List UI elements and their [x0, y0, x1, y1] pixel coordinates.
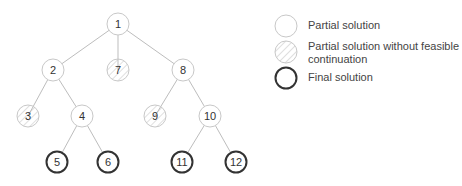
node-label: 11: [176, 156, 187, 168]
node-label: 1: [115, 18, 121, 30]
tree-nodes: 127834910561112: [17, 13, 247, 173]
tree-node-2: 2: [42, 59, 64, 81]
tree-node-4: 4: [71, 105, 93, 127]
infeasible-node-symbol-icon: [272, 40, 302, 64]
node-label: 4: [79, 110, 85, 122]
node-label: 12: [230, 156, 242, 168]
tree-node-10: 10: [199, 105, 221, 127]
tree-node-8: 8: [172, 59, 194, 81]
tree-node-12: 12: [226, 152, 247, 173]
node-label: 7: [115, 64, 121, 76]
partial-node-symbol-icon: [272, 14, 302, 38]
tree-edge: [53, 24, 118, 70]
node-label: 10: [204, 110, 216, 122]
node-label: 8: [180, 64, 186, 76]
legend-label-infeasible: Partial solution without feasible contin…: [308, 40, 462, 66]
legend-label-partial: Partial solution: [308, 19, 462, 32]
legend-item-infeasible: Partial solution without feasible contin…: [272, 40, 302, 64]
tree-edges: [28, 24, 236, 162]
legend-item-final: Final solution: [272, 66, 302, 90]
final-node-symbol-icon: [272, 66, 302, 90]
tree-node-3: 3: [17, 105, 39, 127]
node-label: 5: [54, 156, 60, 168]
tree-node-6: 6: [98, 152, 119, 173]
tree-node-7: 7: [107, 59, 129, 81]
node-label: 9: [152, 110, 158, 122]
legend-item-partial: Partial solution: [272, 14, 302, 38]
tree-node-11: 11: [172, 152, 193, 173]
node-label: 6: [105, 156, 111, 168]
tree-node-9: 9: [144, 105, 166, 127]
legend-label-final: Final solution: [308, 71, 462, 84]
tree-node-5: 5: [47, 152, 68, 173]
node-label: 3: [25, 110, 31, 122]
node-label: 2: [50, 64, 56, 76]
tree-edge: [118, 24, 183, 70]
tree-node-1: 1: [107, 13, 129, 35]
